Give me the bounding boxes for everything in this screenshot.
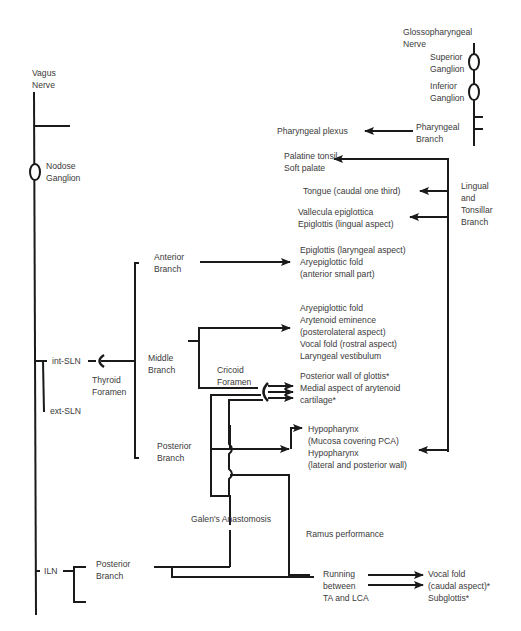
- label-line: (lateral and posterior wall): [308, 459, 407, 471]
- label-line: Ganglion: [430, 92, 464, 104]
- cricoid-foramen-icon: [264, 383, 269, 401]
- vagus-nerve-label: Vagus Nerve: [32, 67, 56, 91]
- running-between-label: Running between TA and LCA: [323, 568, 369, 604]
- posterior-branch-sln-label: Posterior Branch: [157, 440, 191, 464]
- label-line: Hypopharynx: [308, 447, 407, 459]
- label-line: Middle: [148, 352, 175, 364]
- cricoid-foramen-label: Cricoid Foramen: [217, 364, 251, 388]
- label-line: (Mucosa covering PCA): [308, 435, 407, 447]
- label-line: Superior: [430, 51, 464, 63]
- label-line: Epiglottis (lingual aspect): [298, 218, 394, 230]
- label-line: Branch: [154, 263, 184, 275]
- middle-branch-targets-label: Aryepiglottic fold Arytenoid eminence (p…: [300, 302, 397, 362]
- hypopharynx-label: Hypopharynx (Mucosa covering PCA) Hypoph…: [308, 423, 407, 471]
- label-line: (anterior small part): [300, 268, 406, 280]
- label-line: Branch: [461, 216, 493, 228]
- pharyngeal-branch-label: Pharyngeal Branch: [416, 121, 459, 145]
- ramus-performance-label: Ramus performance: [306, 528, 384, 540]
- label-line: Anterior: [154, 251, 184, 263]
- label-line: Ganglion: [430, 63, 464, 75]
- middle-branch-label: Middle Branch: [148, 352, 175, 376]
- nodose-ganglion-icon: [30, 164, 40, 180]
- label-line: Subglottis*: [428, 592, 490, 604]
- thyroid-foramen-label: Thyroid Foramen: [92, 374, 126, 398]
- label-line: Glossopharyngeal: [403, 26, 472, 38]
- label-line: Thyroid: [92, 374, 126, 386]
- label-line: Lingual: [461, 180, 493, 192]
- lingual-tonsillar-branch-label: Lingual and Tonsillar Branch: [461, 180, 493, 228]
- label-line: TA and LCA: [323, 592, 369, 604]
- label-line: Branch: [416, 133, 459, 145]
- label-line: Pharyngeal: [416, 121, 459, 133]
- label-line: Vallecula epiglottica: [298, 206, 394, 218]
- superior-ganglion-icon: [469, 54, 479, 70]
- epiglottis-laryngeal-label: Epiglottis (laryngeal aspect) Aryepiglot…: [300, 244, 406, 280]
- galens-anastomosis-label: Galen's Anastomosis: [191, 513, 271, 525]
- label-line: Posterior wall of glottis*: [300, 370, 400, 382]
- label-line: Aryepiglottic fold: [300, 302, 397, 314]
- label-line: Laryngeal vestibulum: [300, 350, 397, 362]
- label-line: Branch: [157, 452, 191, 464]
- label-line: Soft palate: [284, 162, 338, 174]
- inferior-ganglion-label: Inferior Ganglion: [430, 80, 464, 104]
- label-line: Posterior: [96, 558, 130, 570]
- label-line: Tonsillar: [461, 204, 493, 216]
- label-line: Arytenoid eminence: [300, 314, 397, 326]
- label-line: Branch: [96, 570, 130, 582]
- inferior-ganglion-icon: [469, 84, 479, 100]
- label-line: between: [323, 580, 369, 592]
- label-line: Hypopharynx: [308, 423, 407, 435]
- glossopharyngeal-nerve-label: Glossopharyngeal Nerve: [403, 26, 472, 50]
- label-line: Posterior: [157, 440, 191, 452]
- label-line: and: [461, 192, 493, 204]
- vallecula-label: Vallecula epiglottica Epiglottis (lingua…: [298, 206, 394, 230]
- label-line: Nerve: [32, 79, 56, 91]
- int-sln-label: int-SLN: [52, 355, 81, 367]
- iln-label: ILN: [44, 565, 57, 577]
- nodose-ganglion-label: Nodose Ganglion: [46, 160, 80, 184]
- label-line: Aryepiglottic fold: [300, 256, 406, 268]
- label-line: Cricoid: [217, 364, 251, 376]
- pharyngeal-plexus-label: Pharyngeal plexus: [277, 125, 348, 137]
- label-line: Medial aspect of arytenoid: [300, 382, 400, 394]
- posterior-branch-iln-label: Posterior Branch: [96, 558, 130, 582]
- tongue-label: Tongue (caudal one third): [303, 185, 400, 197]
- anterior-branch-label: Anterior Branch: [154, 251, 184, 275]
- label-line: Foramen: [217, 376, 251, 388]
- label-line: Epiglottis (laryngeal aspect): [300, 244, 406, 256]
- label-line: cartilage*: [300, 394, 400, 406]
- label-line: (posterolateral aspect): [300, 326, 397, 338]
- label-line: Branch: [148, 364, 175, 376]
- palatine-label: Palatine tonsil Soft palate: [284, 150, 338, 174]
- label-line: Vocal fold (rostral aspect): [300, 338, 397, 350]
- superior-ganglion-label: Superior Ganglion: [430, 51, 464, 75]
- vocal-fold-caudal-label: Vocal fold (caudal aspect)* Subglottis*: [428, 568, 490, 604]
- label-line: Nodose: [46, 160, 80, 172]
- label-line: Foramen: [92, 386, 126, 398]
- label-line: (caudal aspect)*: [428, 580, 490, 592]
- posterior-glottis-label: Posterior wall of glottis* Medial aspect…: [300, 370, 400, 406]
- label-line: Nerve: [403, 38, 472, 50]
- label-line: Palatine tonsil: [284, 150, 338, 162]
- label-line: Ganglion: [46, 172, 80, 184]
- label-line: Vocal fold: [428, 568, 490, 580]
- label-line: Inferior: [430, 80, 464, 92]
- label-line: Vagus: [32, 67, 56, 79]
- ext-sln-label: ext-SLN: [50, 405, 81, 417]
- label-line: Running: [323, 568, 369, 580]
